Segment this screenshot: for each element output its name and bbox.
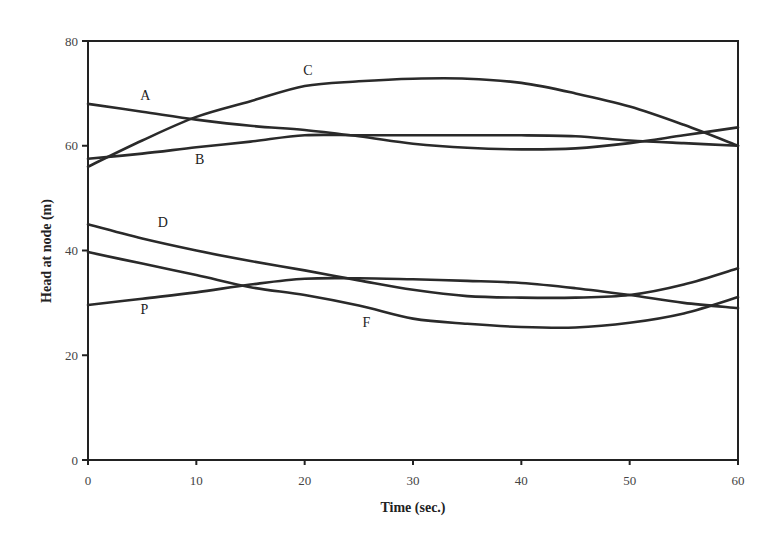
plot-frame (88, 41, 738, 460)
series-line-c (88, 78, 738, 166)
x-tick-label: 60 (732, 473, 745, 488)
y-tick-label: 80 (65, 34, 78, 49)
x-tick-label: 30 (407, 473, 420, 488)
series-label-c: C (303, 63, 312, 78)
x-axis-title: Time (sec.) (380, 500, 445, 516)
series-lines (88, 78, 738, 328)
series-label-a: A (140, 88, 151, 103)
x-axis: 0102030405060 (85, 460, 745, 488)
series-line-b (88, 135, 738, 159)
x-tick-label: 50 (623, 473, 636, 488)
series-label-p: P (140, 302, 148, 317)
y-tick-label: 40 (65, 243, 78, 258)
x-tick-label: 0 (85, 473, 92, 488)
plot-area: 020406080 0102030405060 ABCDFP (65, 34, 745, 489)
x-tick-label: 40 (515, 473, 528, 488)
y-tick-label: 20 (65, 348, 78, 363)
series-label-f: F (363, 315, 371, 330)
line-chart: 020406080 0102030405060 ABCDFP Time (sec… (0, 0, 778, 546)
y-tick-label: 0 (72, 453, 79, 468)
series-label-d: D (158, 215, 168, 230)
y-axis-title: Head at node (m) (39, 199, 55, 303)
x-tick-label: 10 (190, 473, 203, 488)
y-tick-label: 60 (65, 138, 78, 153)
series-labels: ABCDFP (140, 63, 370, 331)
x-tick-label: 20 (298, 473, 311, 488)
series-label-b: B (195, 152, 204, 167)
y-axis: 020406080 (65, 34, 88, 468)
series-line-d (88, 224, 738, 298)
